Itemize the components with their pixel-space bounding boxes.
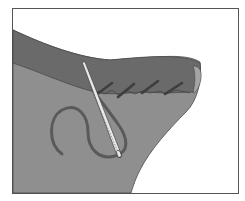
hem-stitch-illustration: Hand-sewn hem stitch on folded fabric wi… [0, 0, 245, 201]
illustration-canvas [0, 0, 245, 201]
